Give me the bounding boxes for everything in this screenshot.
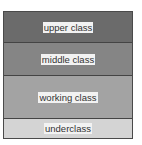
class-pyramid-diagram: upper class middle class working class u… [3,11,133,139]
band-upper-class: upper class [4,12,132,42]
band-label-underclass: underclass [44,123,92,134]
band-label-upper-class: upper class [43,22,94,33]
band-label-working-class: working class [38,92,97,103]
band-working-class: working class [4,75,132,118]
band-underclass: underclass [4,118,132,138]
band-middle-class: middle class [4,42,132,75]
band-label-middle-class: middle class [41,54,95,65]
